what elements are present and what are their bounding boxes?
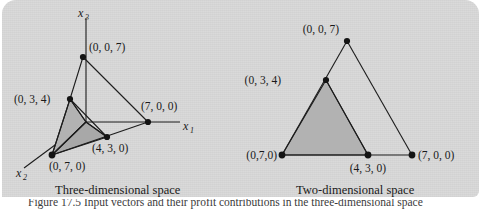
point-label-007-right: (0, 0, 7) xyxy=(303,23,340,36)
figure-root: x 3 x 1 x 2 (0, 0, 7) (0, 3, 4) (7, 0, 0… xyxy=(0,0,480,215)
point-label-070-left: (0, 7, 0) xyxy=(49,160,86,173)
left-panel-caption: Three-dimensional space xyxy=(55,183,181,197)
vertex-070-right xyxy=(279,152,286,159)
vertex-007-left xyxy=(80,54,86,60)
point-label-700-left: (7, 0, 0) xyxy=(141,100,178,113)
vertex-007-right xyxy=(344,38,350,44)
axis-label-x2: x 2 xyxy=(15,166,27,182)
point-label-430-left: (4, 3, 0) xyxy=(92,142,129,155)
point-label-007-left: (0, 0, 7) xyxy=(89,41,126,54)
vertex-034-right xyxy=(323,77,329,83)
left-panel-three-dimensional: x 3 x 1 x 2 (0, 0, 7) (0, 3, 4) (7, 0, 0… xyxy=(14,6,194,197)
figure-caption-text: Figure 17.5 Input vectors and their prof… xyxy=(28,199,423,208)
axis-label-x2-subscript: 2 xyxy=(23,173,27,182)
shaded-face-right xyxy=(282,80,368,155)
vertex-430-left xyxy=(104,134,110,140)
point-label-070-right: (0,7,0) xyxy=(246,149,277,162)
axis-label-x3-subscript: 3 xyxy=(84,13,89,22)
vertex-700-right xyxy=(409,152,416,159)
right-panel-caption: Two-dimensional space xyxy=(296,183,415,197)
point-label-034-left: (0, 3, 4) xyxy=(14,93,51,106)
axis-label-x2-base: x xyxy=(15,166,22,180)
axis-label-x1-base: x xyxy=(182,119,189,133)
vertex-034-left xyxy=(67,96,73,102)
point-label-430-right: (4, 3, 0) xyxy=(350,162,387,175)
point-label-034-right: (0, 3, 4) xyxy=(245,74,282,87)
edge-007-700 xyxy=(83,57,148,122)
figure-caption-row: Figure 17.5 Input vectors and their prof… xyxy=(0,199,480,215)
vertex-430-right xyxy=(365,152,372,159)
axis-label-x3-base: x xyxy=(77,6,84,20)
figure-diagram: x 3 x 1 x 2 (0, 0, 7) (0, 3, 4) (7, 0, 0… xyxy=(0,0,480,215)
vertex-070-left xyxy=(49,152,56,159)
vertex-700-left xyxy=(145,119,151,125)
axis-label-x3: x 3 xyxy=(77,6,89,22)
right-panel-two-dimensional: (0, 0, 7) (0, 3, 4) (0,7,0) (4, 3, 0) (7… xyxy=(245,23,455,197)
axis-label-x1-subscript: 1 xyxy=(190,126,194,135)
point-label-700-right: (7, 0, 0) xyxy=(418,149,455,162)
axis-label-x1: x 1 xyxy=(182,119,194,135)
